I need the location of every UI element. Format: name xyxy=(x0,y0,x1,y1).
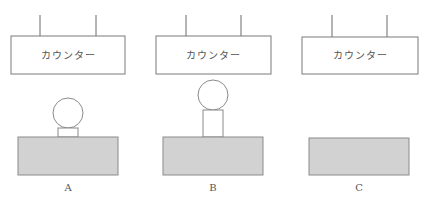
panel-b: カウンター B xyxy=(156,15,271,193)
tall-stand xyxy=(203,110,223,137)
panel-c: カウンター C xyxy=(302,15,418,193)
counter-label: カウンター xyxy=(333,50,388,61)
ball xyxy=(53,98,83,128)
counter-label: カウンター xyxy=(41,50,96,61)
panel-label: B xyxy=(209,182,216,193)
panel-a: カウンター A xyxy=(11,15,125,193)
panel-label: A xyxy=(63,182,72,193)
ball xyxy=(198,80,228,110)
short-stand xyxy=(58,128,78,137)
base-block xyxy=(163,137,263,175)
panel-label: C xyxy=(355,182,363,193)
base-block xyxy=(18,137,118,175)
counter-label: カウンター xyxy=(186,50,241,61)
base-block xyxy=(309,138,409,175)
diagram-canvas: カウンター A カウンター B カウンター C xyxy=(0,0,425,205)
